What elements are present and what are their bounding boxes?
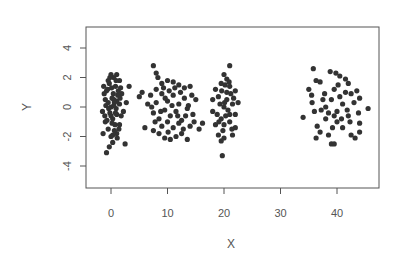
data-point [192,119,197,124]
data-point [158,109,163,114]
data-point [221,122,226,127]
data-point [148,93,153,98]
y-tick-label: -4 [61,161,73,171]
data-point [140,90,145,95]
data-point [217,101,222,106]
data-point [351,100,356,105]
data-point [318,79,323,84]
data-point [231,96,236,101]
data-point [346,81,351,86]
data-point [188,124,193,129]
x-tick-label: 10 [161,207,173,219]
data-point [323,104,328,109]
data-point [336,82,341,87]
data-point [107,75,112,80]
data-point [185,137,190,142]
data-point [118,85,123,90]
data-point [166,130,171,135]
data-point [323,116,328,121]
data-point [182,96,187,101]
data-point [155,75,160,80]
data-point [340,101,345,106]
data-point [137,94,142,99]
data-point [151,63,156,68]
data-point [354,88,359,93]
data-point [330,125,335,130]
data-point [108,113,113,118]
data-point [142,125,147,130]
data-point [343,90,348,95]
data-point [322,91,327,96]
data-point [328,69,333,74]
data-point [188,84,193,89]
data-point [193,97,198,102]
x-tick-label: 40 [331,207,343,219]
data-point [230,132,235,137]
data-point [159,124,164,129]
data-point [334,119,339,124]
data-point [153,119,158,124]
data-point [310,100,315,105]
data-point [163,96,168,101]
data-point [175,113,180,118]
data-point [314,135,319,140]
data-point [229,127,234,132]
data-point [309,93,314,98]
x-tick-label: 0 [108,207,114,219]
data-point [329,97,334,102]
data-point [154,100,159,105]
data-point [151,110,156,115]
data-point [356,110,361,115]
data-point [165,78,170,83]
data-point [210,97,215,102]
data-point [154,87,159,92]
data-point [315,124,320,129]
data-point [227,119,232,124]
data-point [171,79,176,84]
data-point [349,91,354,96]
data-point [301,115,306,120]
data-point [183,113,188,118]
data-point [110,96,115,101]
data-point [119,91,124,96]
data-point [347,119,352,124]
data-point [220,153,225,158]
data-point [332,87,337,92]
data-point [339,116,344,121]
data-point [172,85,177,90]
data-point [171,93,176,98]
data-point [213,87,218,92]
data-point [114,78,119,83]
data-point [176,121,181,126]
data-point [165,119,170,124]
data-point [221,72,226,77]
data-point [112,100,117,105]
data-point [222,100,227,105]
data-point [223,113,228,118]
data-point [326,110,331,115]
data-point [326,132,331,137]
data-point [334,109,339,114]
data-point [346,113,351,118]
data-point [357,96,362,101]
data-point [182,85,187,90]
data-point [215,112,220,117]
data-point [167,88,172,93]
data-point [312,109,317,114]
data-point [219,88,224,93]
data-point [320,97,325,102]
data-point [332,141,337,146]
data-point [227,84,232,89]
plot-background [0,0,406,263]
data-point [149,104,154,109]
y-tick-label: 0 [61,104,73,110]
data-point [111,91,116,96]
x-tick-label: 30 [274,207,286,219]
y-tick-label: 4 [61,45,73,51]
data-point [366,106,371,111]
data-point [318,130,323,135]
data-point [236,100,241,105]
data-point [340,125,345,130]
data-point [173,134,178,139]
data-point [210,109,215,114]
